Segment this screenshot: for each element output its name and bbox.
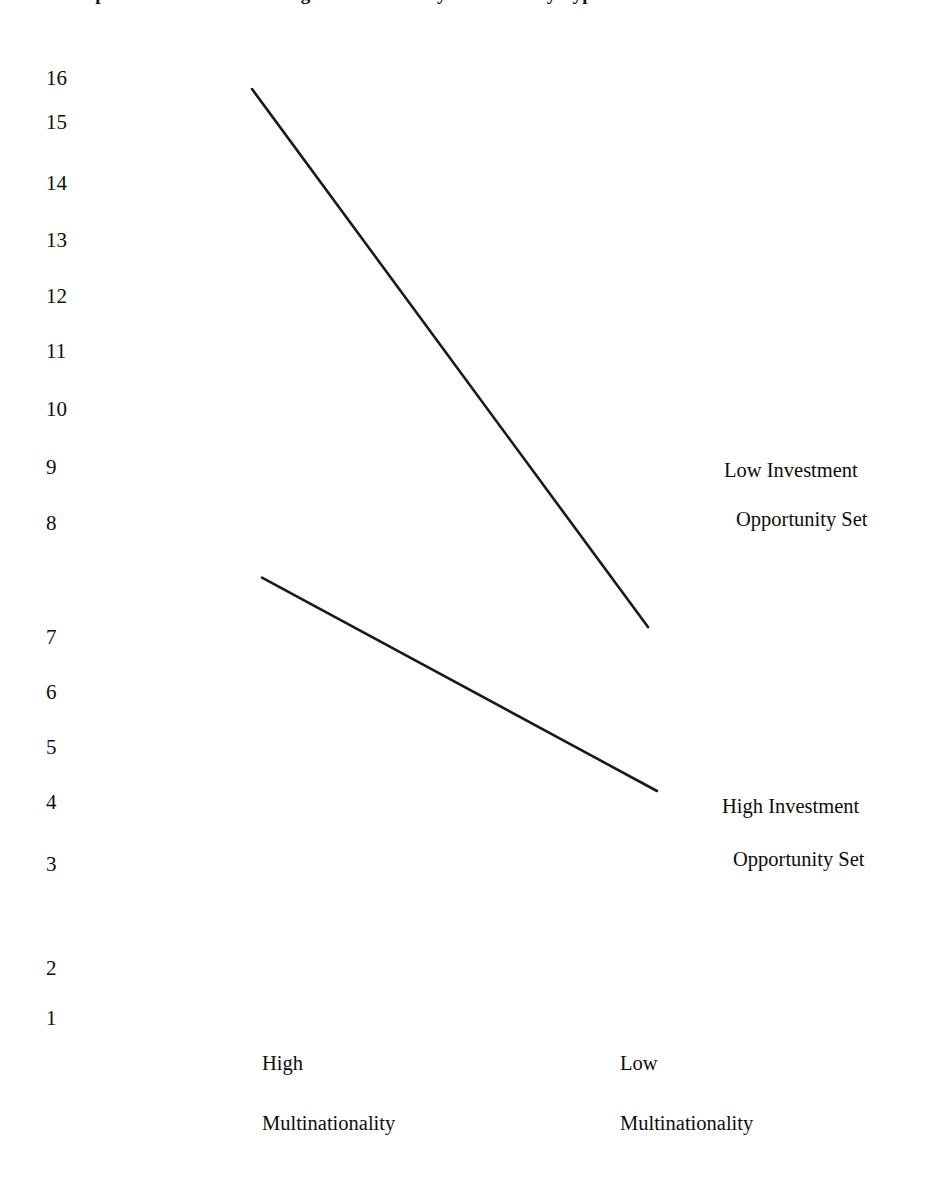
figure-container: Graph 1: Performance Change in Profitabi… (0, 0, 936, 1178)
series-label-high-investment-line1: High Investment (722, 785, 859, 827)
plot-area (0, 0, 936, 1178)
series-label-low-investment-line1: Low Investment (724, 449, 858, 491)
series-line-high-investment (262, 578, 657, 791)
x-tick-label-high-line1: High (262, 1040, 303, 1086)
series-label-low-investment-line2: Opportunity Set (736, 498, 868, 540)
x-tick-label-low-line1: Low (620, 1040, 658, 1086)
x-tick-label-high-line2: Multinationality (262, 1100, 395, 1146)
series-label-high-investment-line2: Opportunity Set (733, 838, 865, 880)
x-tick-label-low-line2: Multinationality (620, 1100, 753, 1146)
series-line-low-investment (252, 89, 648, 627)
